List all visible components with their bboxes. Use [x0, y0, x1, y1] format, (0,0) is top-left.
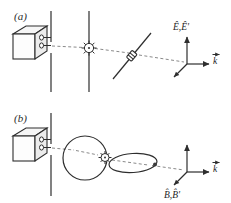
e-hat-label-a: Ê,Ê' — [172, 21, 190, 32]
port-circle-upper-b — [40, 137, 44, 142]
port-circle-lower-a — [40, 43, 44, 48]
beam-path-b — [52, 148, 184, 170]
panel-a: (a) — [13, 10, 220, 92]
figure-root: (a) — [0, 0, 231, 203]
panel-b: (b) — [13, 112, 220, 200]
b-hat-label-b: B̂,B̂' — [164, 188, 181, 200]
axis-triad-b — [174, 145, 209, 185]
k-hat-glyph-a: k — [213, 56, 218, 66]
light-source-box-b — [13, 128, 51, 161]
panel-b-label: (b) — [14, 112, 27, 125]
ellipse-outline-b — [108, 152, 157, 174]
axis-triad-a — [174, 37, 209, 77]
panel-a-label: (a) — [14, 10, 27, 23]
port-circle-upper-a — [40, 35, 44, 40]
light-source-box-a — [13, 26, 51, 59]
port-circle-lower-b — [40, 145, 44, 150]
k-hat-label-a: k — [213, 55, 220, 67]
k-hat-label-b: k — [213, 163, 220, 175]
scattering-center-a — [82, 41, 97, 56]
ellipse-marker-dot-b — [153, 163, 157, 167]
k-hat-glyph-b: k — [213, 164, 218, 174]
scattering-diagram: (a) — [0, 0, 231, 203]
beam-path-a — [52, 46, 184, 62]
